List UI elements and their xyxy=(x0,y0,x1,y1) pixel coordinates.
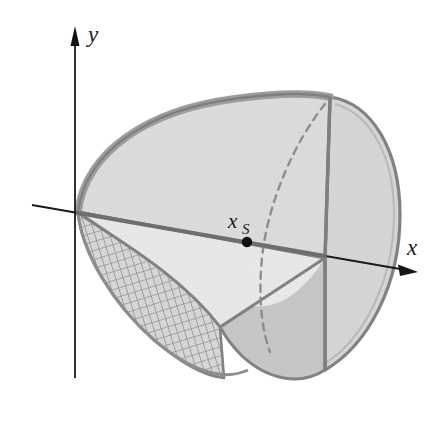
end-cap-surface xyxy=(325,97,400,370)
centroid-dot xyxy=(242,237,252,247)
x-axis-arrowhead xyxy=(398,265,418,277)
y-axis-label: y xyxy=(86,22,99,47)
y-axis-arrowhead xyxy=(71,26,80,46)
centroid-label-subscript: S xyxy=(242,221,250,237)
x-axis-label: x xyxy=(406,235,418,260)
solid-of-revolution-diagram: y x x S xyxy=(0,0,444,445)
figure-container: y x x S xyxy=(0,0,444,445)
centroid-label-main: x xyxy=(227,209,238,233)
